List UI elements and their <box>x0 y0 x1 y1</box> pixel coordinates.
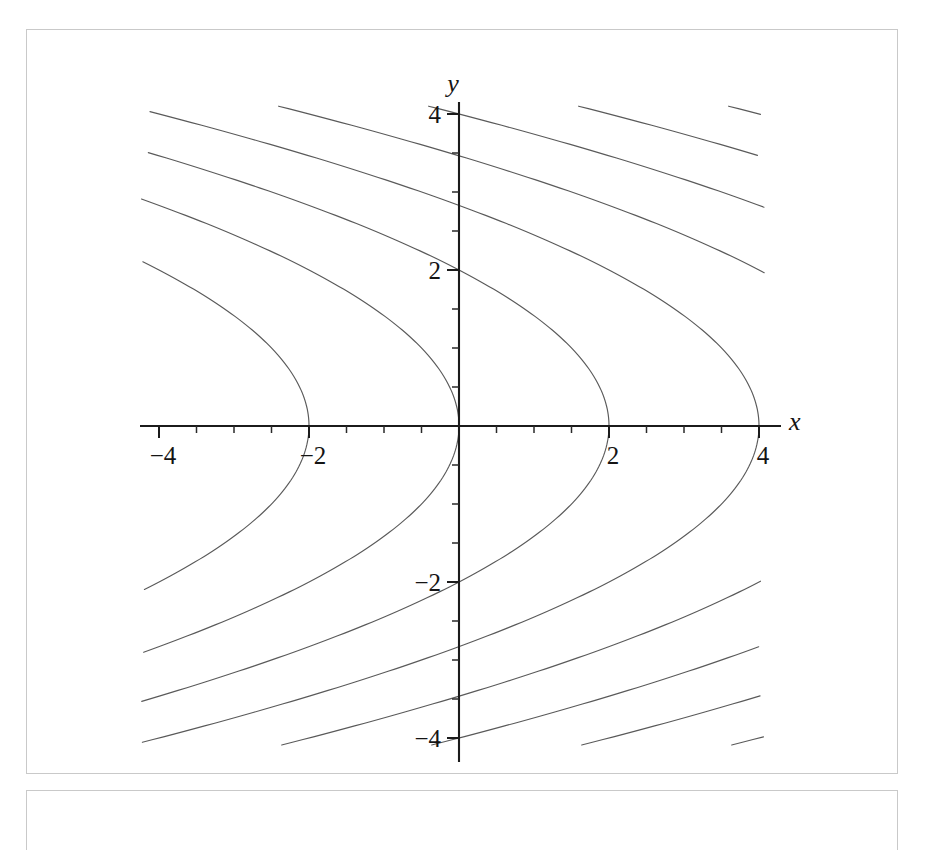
next-figure-frame <box>26 790 898 850</box>
contour-plot: −4−22442−2−4xy <box>27 30 899 775</box>
x-tick-label: 2 <box>607 442 620 469</box>
x-tick-label: 4 <box>757 442 770 469</box>
plot-svg: −4−22442−2−4xy <box>27 30 899 775</box>
y-tick-label: −4 <box>414 725 441 752</box>
y-tick-label: 2 <box>429 257 442 284</box>
y-tick-label: −2 <box>414 569 441 596</box>
x-axis-label: x <box>788 407 801 436</box>
y-tick-label: 4 <box>429 101 442 128</box>
axis-labels-group: −4−22442−2−4xy <box>150 69 801 752</box>
x-tick-label: −2 <box>300 442 327 469</box>
y-axis-label: y <box>444 69 459 98</box>
axes-group <box>140 102 781 762</box>
x-tick-label: −4 <box>150 442 177 469</box>
figure-frame: −4−22442−2−4xy <box>26 29 898 774</box>
